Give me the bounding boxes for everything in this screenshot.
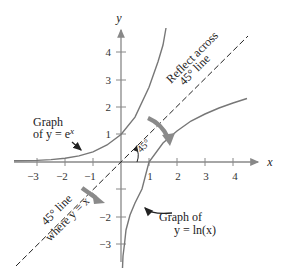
svg-text:3: 3 [106, 74, 112, 86]
svg-text:−3: −3 [27, 170, 39, 182]
svg-text:−3: −3 [99, 238, 111, 250]
svg-text:4: 4 [106, 46, 112, 58]
y-axis-label: y [115, 11, 122, 25]
svg-text:3: 3 [203, 170, 209, 182]
svg-text:2: 2 [106, 101, 112, 113]
reflection-diagram: −3 −2 −1 1 2 3 4 1 2 3 4 −2 −3 y x 45° G… [0, 0, 289, 272]
angle-label: 45° [135, 137, 153, 155]
reflect-label: Reflect across 45° line [163, 28, 221, 88]
ln-label: Graph of y = ln(x) [145, 208, 216, 237]
svg-text:2: 2 [175, 170, 181, 182]
svg-text:4: 4 [232, 170, 238, 182]
reflect-arrow-upper [148, 118, 175, 146]
svg-text:−1: −1 [84, 170, 96, 182]
svg-text:−2: −2 [56, 170, 68, 182]
svg-text:1: 1 [147, 170, 153, 182]
ln-curve [123, 99, 248, 269]
svg-text:Graph of: Graph of [159, 210, 202, 224]
svg-text:1: 1 [106, 128, 112, 140]
svg-text:of y = ex: of y = ex [33, 126, 74, 141]
line-label: 45° line where y = x [38, 191, 92, 244]
x-tick-labels: −3 −2 −1 1 2 3 4 [27, 170, 238, 182]
x-axis-label: x [266, 155, 273, 169]
svg-text:−2: −2 [99, 211, 111, 223]
svg-text:y = ln(x): y = ln(x) [174, 223, 216, 237]
exp-label: Graph of y = ex [33, 115, 81, 150]
